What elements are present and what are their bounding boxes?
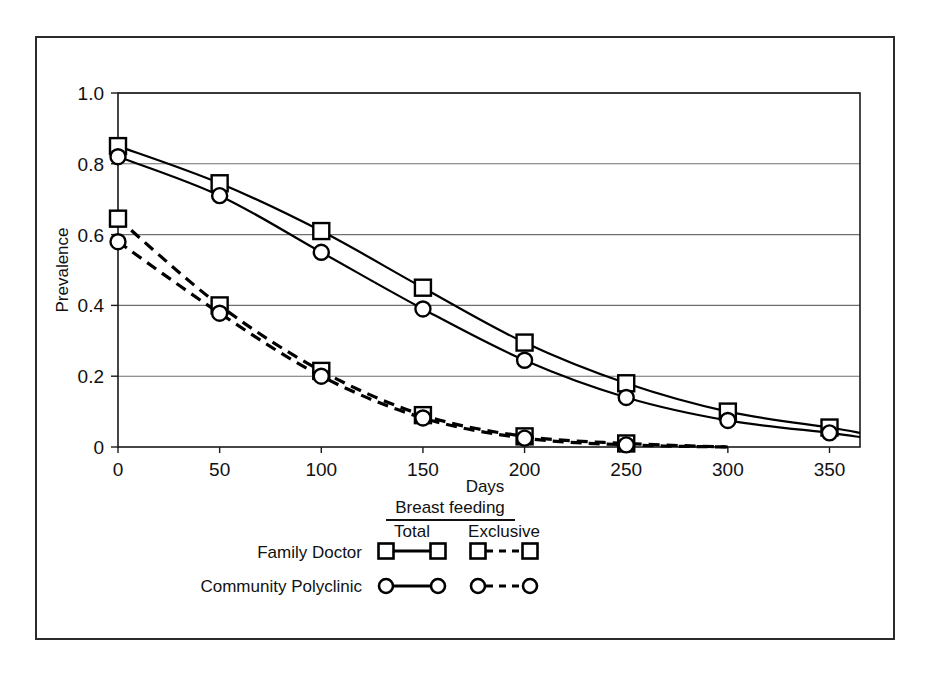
prevalence-line-chart: 00.20.40.60.81.0 050100150200250300350 P… bbox=[0, 0, 927, 673]
data-point-circle bbox=[619, 437, 634, 452]
series-line-1 bbox=[118, 157, 860, 437]
x-tick-label: 50 bbox=[209, 459, 230, 480]
legend-column-total: Total bbox=[394, 522, 430, 541]
data-point-circle bbox=[314, 369, 329, 384]
y-axis-title: Prevalence bbox=[53, 227, 72, 312]
legend-swatch-circle bbox=[379, 579, 393, 593]
data-point-circle bbox=[415, 301, 430, 316]
figure-container: 00.20.40.60.81.0 050100150200250300350 P… bbox=[0, 0, 927, 673]
data-point-square bbox=[110, 211, 126, 227]
data-point-circle bbox=[415, 410, 430, 425]
data-point-circle bbox=[212, 306, 227, 321]
x-tick-label: 150 bbox=[407, 459, 439, 480]
data-markers-group bbox=[110, 138, 838, 452]
legend-swatch-circle bbox=[523, 579, 537, 593]
data-point-square bbox=[415, 280, 431, 296]
data-point-circle bbox=[517, 431, 532, 446]
y-tick-label: 0.6 bbox=[78, 225, 104, 246]
data-point-circle bbox=[720, 413, 735, 428]
y-axis-tick-labels: 00.20.40.60.81.0 bbox=[78, 83, 105, 458]
legend-swatch-circle bbox=[471, 579, 485, 593]
y-tick-label: 0.2 bbox=[78, 366, 104, 387]
x-tick-label: 350 bbox=[814, 459, 846, 480]
x-axis-title: Days bbox=[466, 477, 505, 496]
data-point-circle bbox=[212, 188, 227, 203]
legend-swatch-circle bbox=[431, 579, 445, 593]
data-series-group bbox=[118, 146, 860, 447]
y-tick-label: 1.0 bbox=[78, 83, 104, 104]
data-point-circle bbox=[314, 245, 329, 260]
legend-swatch-square bbox=[471, 544, 486, 559]
legend-swatch-square bbox=[379, 544, 394, 559]
legend-swatch-square bbox=[523, 544, 538, 559]
legend-swatch-square bbox=[431, 544, 446, 559]
y-tick-label: 0 bbox=[93, 437, 104, 458]
legend-row-family-doctor: Family Doctor bbox=[257, 543, 362, 562]
data-point-square bbox=[313, 223, 329, 239]
series-line-0 bbox=[118, 146, 860, 433]
legend-swatches bbox=[379, 544, 538, 594]
y-tick-label: 0.8 bbox=[78, 154, 104, 175]
x-tick-label: 200 bbox=[509, 459, 541, 480]
x-tick-label: 300 bbox=[712, 459, 744, 480]
legend: Breast feeding Total Exclusive Family Do… bbox=[200, 498, 539, 596]
x-tick-label: 250 bbox=[610, 459, 642, 480]
data-point-circle bbox=[517, 353, 532, 368]
plot-frame bbox=[118, 93, 860, 447]
data-point-circle bbox=[111, 234, 126, 249]
data-point-circle bbox=[111, 149, 126, 164]
data-point-square bbox=[517, 335, 533, 351]
y-tick-label: 0.4 bbox=[78, 295, 105, 316]
gridlines-group bbox=[118, 93, 860, 376]
x-tick-label: 0 bbox=[113, 459, 124, 480]
axis-ticks-group bbox=[111, 93, 830, 453]
legend-column-exclusive: Exclusive bbox=[468, 522, 540, 541]
legend-header: Breast feeding bbox=[395, 498, 505, 517]
data-point-circle bbox=[619, 390, 634, 405]
data-point-circle bbox=[822, 425, 837, 440]
x-tick-label: 100 bbox=[305, 459, 337, 480]
legend-row-community-polyclinic: Community Polyclinic bbox=[200, 577, 362, 596]
